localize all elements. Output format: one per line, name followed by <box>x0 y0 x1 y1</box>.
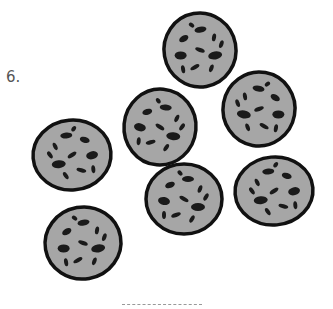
cookie-icon <box>232 154 316 229</box>
cookie-icon <box>146 164 222 234</box>
cookie-icon <box>121 86 199 168</box>
cookie-icon <box>30 117 114 194</box>
answer-line[interactable] <box>122 304 202 305</box>
cookies-illustration <box>0 0 333 309</box>
cookie-icon <box>217 66 301 151</box>
cookie-icon <box>158 7 242 92</box>
cookie-icon <box>39 201 126 285</box>
